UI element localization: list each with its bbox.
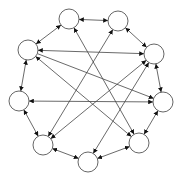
edge-n8-n9 (21, 60, 27, 91)
node-n7 (33, 135, 53, 155)
graph-diagram (0, 0, 182, 185)
edge-n2-n3 (125, 28, 146, 47)
edge-n9-n3 (38, 50, 144, 53)
edge-n9-n4 (37, 54, 153, 99)
node-n6 (78, 152, 98, 172)
node-n4 (153, 92, 173, 112)
edge-n2-n7 (48, 30, 113, 137)
edge-n3-n4 (156, 64, 161, 92)
nodes-layer (9, 9, 173, 172)
edge-n6-n7 (52, 149, 78, 159)
edge-n9-n1 (36, 25, 61, 44)
node-n3 (144, 44, 164, 64)
edge-n9-n5 (36, 56, 132, 136)
node-n5 (129, 133, 149, 153)
edge-n4-n5 (144, 111, 158, 135)
node-n1 (59, 9, 79, 29)
edge-n1-n2 (79, 19, 108, 20)
edge-n3-n7 (51, 60, 147, 138)
edge-n5-n6 (97, 146, 129, 158)
node-n2 (108, 11, 128, 31)
node-n8 (9, 91, 29, 111)
edge-n8-n4 (29, 101, 153, 102)
edge-n7-n8 (24, 110, 38, 136)
node-n9 (18, 40, 38, 60)
